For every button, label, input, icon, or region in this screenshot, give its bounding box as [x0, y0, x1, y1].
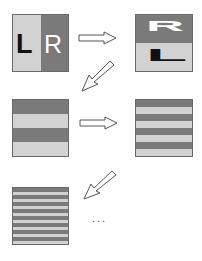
right-arrow-icon — [79, 116, 119, 130]
stripe-dark — [13, 100, 68, 114]
stripe-light — [136, 121, 192, 128]
stage3-4-stripe-square — [12, 99, 69, 157]
stage4-8-stripe-square — [135, 99, 193, 157]
stripe-dark — [136, 142, 192, 149]
stripe-light — [136, 149, 192, 156]
letter-r: R — [44, 32, 62, 57]
stripe-light — [13, 114, 68, 128]
stripe-stack — [13, 188, 68, 244]
stripe-stack — [136, 100, 192, 156]
right-arrow-icon — [78, 31, 118, 45]
stripe-dark — [13, 128, 68, 142]
stripe-light — [136, 107, 192, 114]
stripe-stack — [13, 100, 68, 156]
stripe-dark — [136, 114, 192, 121]
stripe-light — [13, 241, 68, 245]
stripe-dark — [136, 100, 192, 107]
diagonal-arrow-icon — [82, 170, 118, 202]
letter-l: L — [16, 31, 33, 58]
stripe-light — [13, 142, 68, 156]
diagonal-arrow-icon — [80, 60, 116, 94]
stage1-lr-square: L R — [12, 14, 69, 72]
stripe-light — [136, 135, 192, 142]
continuation-ellipsis: ... — [92, 212, 107, 224]
squashed-letter-l: L — [146, 48, 187, 64]
stage5-16-stripe-square — [12, 187, 69, 245]
stripe-dark — [136, 128, 192, 135]
stage2-rl-square: R L — [135, 14, 193, 72]
squashed-letter-r: R — [146, 19, 184, 33]
